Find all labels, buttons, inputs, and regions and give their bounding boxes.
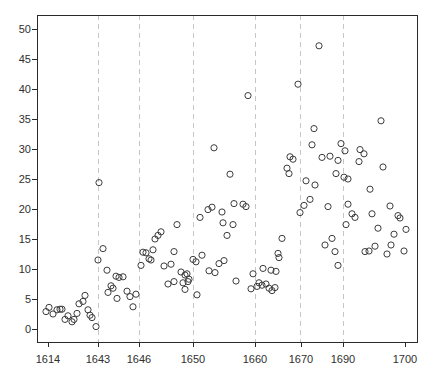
data-point [194, 292, 200, 298]
data-point [286, 171, 292, 177]
data-point [182, 286, 188, 292]
data-point [171, 249, 177, 255]
x-tick-label-1700: 1700 [393, 353, 417, 365]
data-point [148, 257, 154, 263]
data-point [250, 271, 256, 277]
data-point [171, 279, 177, 285]
data-point [375, 225, 381, 231]
data-point [93, 324, 99, 330]
data-point [275, 250, 281, 256]
data-point [322, 242, 328, 248]
y-tick-label-45: 45 [19, 53, 31, 65]
y-tick-label-10: 10 [19, 263, 31, 275]
data-point [227, 171, 233, 177]
data-point [248, 286, 254, 292]
data-point [401, 248, 407, 254]
data-point [279, 235, 285, 241]
data-point [127, 294, 133, 300]
data-point [100, 246, 106, 252]
data-point [295, 81, 301, 87]
data-point [231, 201, 237, 207]
gridlines-group [99, 15, 344, 342]
data-point [43, 309, 49, 315]
y-tick-label-30: 30 [19, 143, 31, 155]
data-point [199, 252, 205, 258]
data-point [309, 142, 315, 148]
data-point [387, 203, 393, 209]
data-point [329, 235, 335, 241]
y-tick-label-20: 20 [19, 203, 31, 215]
data-point [333, 171, 339, 177]
data-point [212, 270, 218, 276]
data-point [211, 145, 217, 151]
data-point [161, 263, 167, 269]
data-point [74, 310, 80, 316]
plot-box [38, 16, 418, 343]
data-point [221, 258, 227, 264]
data-point [224, 232, 230, 238]
data-point [325, 204, 331, 210]
data-point [369, 211, 375, 217]
data-point [303, 178, 309, 184]
data-point [380, 164, 386, 170]
x-tick-label-1646: 1646 [127, 353, 151, 365]
data-point [335, 262, 341, 268]
x-tick-label-1670: 1670 [289, 353, 313, 365]
data-point [138, 262, 144, 268]
y-tick-label-15: 15 [19, 233, 31, 245]
data-point [301, 202, 307, 208]
data-point [174, 222, 180, 228]
x-tick-label-1660: 1660 [243, 353, 267, 365]
data-point [388, 242, 394, 248]
data-point [46, 304, 52, 310]
y-tick-label-50: 50 [19, 23, 31, 35]
data-point [197, 214, 203, 220]
data-point [319, 154, 325, 160]
data-point [276, 255, 282, 261]
data-point [245, 93, 251, 99]
y-tick-label-25: 25 [19, 173, 31, 185]
x-tick-label-1614: 1614 [36, 353, 60, 365]
data-point [391, 231, 397, 237]
data-point [403, 226, 409, 232]
data-point [367, 186, 373, 192]
data-point [312, 182, 318, 188]
x-tick-label-1643: 1643 [86, 353, 110, 365]
data-point [332, 249, 338, 255]
data-point [335, 157, 341, 163]
data-point [356, 159, 362, 165]
data-point [372, 243, 378, 249]
x-tick-label-1690: 1690 [331, 353, 355, 365]
data-point [366, 248, 372, 254]
data-point [316, 43, 322, 49]
data-point [114, 295, 120, 301]
y-axis: 05101520253035404550 [19, 23, 37, 335]
data-point [165, 281, 171, 287]
data-point [206, 268, 212, 274]
data-points-group [43, 43, 409, 330]
data-point [263, 281, 269, 287]
y-tick-label-35: 35 [19, 113, 31, 125]
data-point [384, 251, 390, 257]
data-point [342, 148, 348, 154]
y-tick-label-5: 5 [25, 293, 31, 305]
x-axis: 16141643164616501660167016901700 [36, 342, 417, 365]
data-point [130, 304, 136, 310]
data-point [307, 196, 313, 202]
data-point [82, 292, 88, 298]
data-point [219, 209, 225, 215]
data-point [220, 220, 226, 226]
scatter-plot-figure: 0510152025303540455016141643164616501660… [0, 0, 428, 376]
y-tick-label-40: 40 [19, 83, 31, 95]
data-point [120, 274, 126, 280]
data-point [345, 176, 351, 182]
data-point [104, 267, 110, 273]
data-point [327, 153, 333, 159]
data-point [345, 201, 351, 207]
y-tick-label-0: 0 [25, 323, 31, 335]
data-point [311, 126, 317, 132]
data-point [150, 247, 156, 253]
data-point [230, 222, 236, 228]
data-point [233, 278, 239, 284]
data-point [133, 291, 139, 297]
